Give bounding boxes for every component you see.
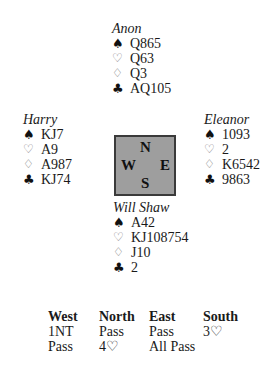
diamond-icon: ♢: [23, 157, 41, 172]
north-clubs-row: ♣ AQ105: [112, 81, 171, 96]
spade-icon: ♠: [112, 36, 130, 51]
south-clubs-row: ♣ 2: [113, 260, 189, 275]
auction-bid: 1NT: [48, 324, 99, 339]
north-player-name: Anon: [112, 21, 171, 36]
club-icon: ♣: [113, 260, 131, 275]
spade-icon: ♠: [204, 127, 222, 142]
west-diamonds: A987: [41, 157, 72, 172]
west-clubs: KJ74: [41, 172, 71, 187]
compass-north-label: N: [140, 140, 151, 155]
auction-header-north: North: [99, 309, 149, 324]
auction-bid: Pass: [48, 339, 99, 354]
spade-icon: ♠: [23, 127, 41, 142]
auction-bid: Pass: [99, 324, 149, 339]
south-hearts-row: ♡ KJ108754: [113, 230, 189, 245]
heart-icon: ♡: [204, 142, 222, 157]
east-clubs: 9863: [222, 172, 250, 187]
east-player-name: Eleanor: [204, 112, 260, 127]
east-spades: 1093: [222, 127, 250, 142]
compass-south-label: S: [141, 176, 149, 191]
heart-icon: ♡: [113, 230, 131, 245]
diamond-icon: ♢: [113, 245, 131, 260]
auction-bid: All Pass: [149, 339, 203, 354]
south-hand: Will Shaw ♠ A42 ♡ KJ108754 ♢ J10 ♣ 2: [113, 200, 189, 275]
east-diamonds: K6542: [222, 157, 260, 172]
west-diamonds-row: ♢ A987: [23, 157, 72, 172]
auction-bid: 4♡: [99, 339, 149, 354]
west-player-name: Harry: [23, 112, 72, 127]
east-hearts-row: ♡ 2: [204, 142, 260, 157]
west-hearts-row: ♡ A9: [23, 142, 72, 157]
west-hand: Harry ♠ KJ7 ♡ A9 ♢ A987 ♣ KJ74: [23, 112, 72, 187]
west-spades-row: ♠ KJ7: [23, 127, 72, 142]
auction-header-east: East: [149, 309, 203, 324]
north-hearts: Q63: [130, 51, 154, 66]
west-clubs-row: ♣ KJ74: [23, 172, 72, 187]
south-player-name: Will Shaw: [113, 200, 189, 215]
auction-row: Pass 4♡ All Pass: [48, 339, 263, 354]
west-hearts: A9: [41, 142, 58, 157]
diamond-icon: ♢: [204, 157, 222, 172]
south-spades-row: ♠ A42: [113, 215, 189, 230]
compass-box: N W E S: [114, 135, 176, 196]
heart-icon: ♡: [23, 142, 41, 157]
club-icon: ♣: [112, 81, 130, 96]
auction-header-south: South: [203, 309, 263, 324]
auction-table: West North East South 1NT Pass Pass 3♡ P…: [48, 309, 263, 354]
north-hand: Anon ♠ Q865 ♡ Q63 ♢ Q3 ♣ AQ105: [112, 21, 171, 96]
spade-icon: ♠: [113, 215, 131, 230]
south-diamonds-row: ♢ J10: [113, 245, 189, 260]
north-hearts-row: ♡ Q63: [112, 51, 171, 66]
auction-bid: 3♡: [203, 324, 263, 339]
heart-icon: ♡: [112, 51, 130, 66]
south-hearts: KJ108754: [131, 230, 189, 245]
diamond-icon: ♢: [112, 66, 130, 81]
auction-bid: Pass: [149, 324, 203, 339]
auction-row: 1NT Pass Pass 3♡: [48, 324, 263, 339]
auction-header-row: West North East South: [48, 309, 263, 324]
club-icon: ♣: [204, 172, 222, 187]
club-icon: ♣: [23, 172, 41, 187]
west-spades: KJ7: [41, 127, 64, 142]
south-spades: A42: [131, 215, 155, 230]
north-diamonds-row: ♢ Q3: [112, 66, 171, 81]
south-diamonds: J10: [131, 245, 150, 260]
north-spades-row: ♠ Q865: [112, 36, 171, 51]
north-spades: Q865: [130, 36, 161, 51]
compass-east-label: E: [160, 158, 170, 173]
auction-bid: [203, 339, 263, 354]
north-clubs: AQ105: [130, 81, 171, 96]
north-diamonds: Q3: [130, 66, 147, 81]
east-hearts: 2: [222, 142, 229, 157]
auction-header-west: West: [48, 309, 99, 324]
east-diamonds-row: ♢ K6542: [204, 157, 260, 172]
east-hand: Eleanor ♠ 1093 ♡ 2 ♢ K6542 ♣ 9863: [204, 112, 260, 187]
east-clubs-row: ♣ 9863: [204, 172, 260, 187]
south-clubs: 2: [131, 260, 138, 275]
compass-west-label: W: [121, 158, 136, 173]
east-spades-row: ♠ 1093: [204, 127, 260, 142]
